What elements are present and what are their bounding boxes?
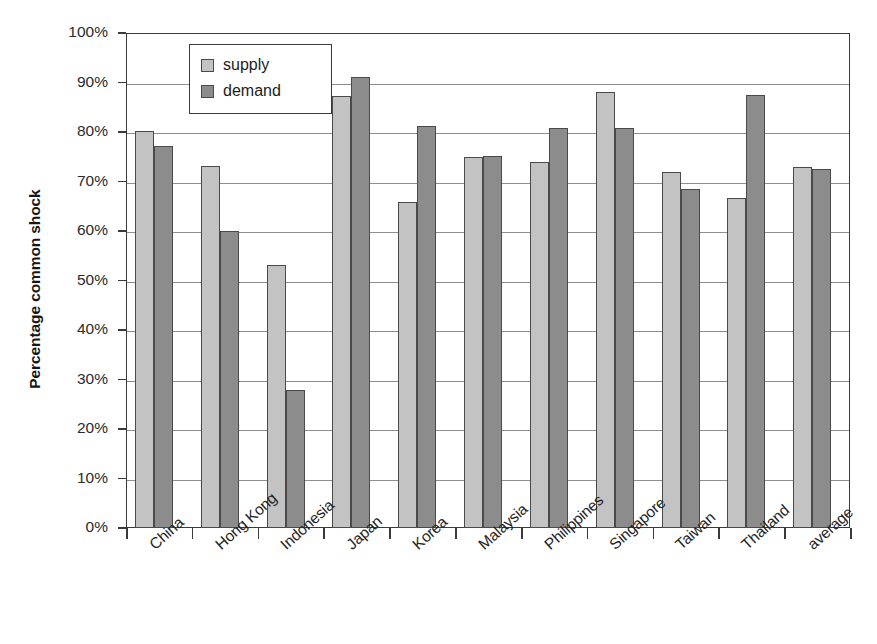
x-axis-tick-mark	[587, 528, 589, 539]
legend-label: demand	[223, 83, 281, 99]
bar-supply	[267, 265, 286, 528]
y-axis-tick-label: 20%	[0, 419, 108, 437]
bar-demand	[417, 126, 436, 528]
bar-group	[389, 33, 455, 528]
y-axis-tick-mark	[118, 280, 126, 282]
y-axis-tick-mark	[118, 428, 126, 430]
legend-swatch-icon	[201, 59, 214, 72]
x-axis-tick-mark	[653, 528, 655, 539]
bar-group	[653, 33, 719, 528]
x-axis-tick-mark	[126, 528, 128, 539]
x-axis-tick-mark	[784, 528, 786, 539]
y-axis-tick-mark	[118, 131, 126, 133]
x-axis-tick-mark	[850, 528, 852, 539]
x-axis-tick-mark	[323, 528, 325, 539]
bar-supply	[530, 162, 549, 528]
y-axis-tick-mark	[118, 82, 126, 84]
y-axis-tick-label: 0%	[0, 518, 108, 536]
bar-demand	[351, 77, 370, 528]
y-axis-tick-mark	[118, 181, 126, 183]
bar-supply	[793, 167, 812, 528]
y-axis-tick-label: 30%	[0, 370, 108, 388]
bar-demand	[286, 390, 305, 528]
y-axis-tick-label: 70%	[0, 172, 108, 190]
legend-item-supply: supply	[201, 52, 331, 78]
x-axis-tick-labels: ChinaHong KongIndonesiaJapanKoreaMalaysi…	[126, 540, 876, 644]
bar-group	[718, 33, 784, 528]
bar-supply	[596, 92, 615, 528]
y-axis-tick-label: 60%	[0, 221, 108, 239]
bar-demand	[220, 231, 239, 528]
legend-item-demand: demand	[201, 78, 331, 104]
chart-legend: supplydemand	[189, 44, 332, 114]
x-axis-tick-mark	[389, 528, 391, 539]
legend-label: supply	[223, 57, 269, 73]
bar-group	[126, 33, 192, 528]
bar-demand	[549, 128, 568, 528]
y-axis-tick-label: 50%	[0, 271, 108, 289]
y-axis-tick-labels: 100%90%80%70%60%50%40%30%20%10%0%	[0, 0, 114, 644]
y-axis-tick-mark	[118, 329, 126, 331]
bar-supply	[201, 166, 220, 528]
y-axis-tick-mark	[118, 230, 126, 232]
y-axis-tick-label: 80%	[0, 122, 108, 140]
bar-demand	[746, 95, 765, 528]
bar-demand	[681, 189, 700, 528]
bar-demand	[483, 156, 502, 528]
bar-supply	[398, 202, 417, 528]
bar-chart-figure: Percentage common shock 100%90%80%70%60%…	[0, 0, 877, 644]
x-axis-tick-mark	[192, 528, 194, 539]
y-axis-tick-label: 90%	[0, 73, 108, 91]
bar-supply	[135, 131, 154, 528]
x-axis-tick-mark	[718, 528, 720, 539]
bar-demand	[812, 169, 831, 528]
bar-supply	[332, 96, 351, 528]
x-axis-tick-mark	[521, 528, 523, 539]
y-axis-tick-label: 40%	[0, 320, 108, 338]
y-axis-tick-mark	[118, 32, 126, 34]
x-axis-tick-mark	[455, 528, 457, 539]
bar-supply	[464, 157, 483, 528]
x-axis-tick-mark	[258, 528, 260, 539]
bar-demand	[154, 146, 173, 528]
bar-group	[455, 33, 521, 528]
bar-group	[587, 33, 653, 528]
y-axis-tick-label: 100%	[0, 23, 108, 41]
bar-supply	[662, 172, 681, 528]
y-axis-tick-mark	[118, 379, 126, 381]
bar-group	[521, 33, 587, 528]
bar-demand	[615, 128, 634, 528]
y-axis-tick-label: 10%	[0, 469, 108, 487]
bar-supply	[727, 198, 746, 528]
legend-swatch-icon	[201, 85, 214, 98]
bar-group	[323, 33, 389, 528]
y-axis-tick-mark	[118, 527, 126, 529]
y-axis-tick-mark	[118, 478, 126, 480]
bar-group	[784, 33, 850, 528]
